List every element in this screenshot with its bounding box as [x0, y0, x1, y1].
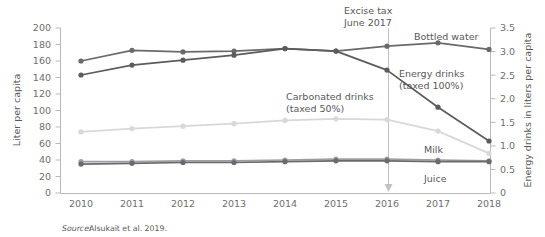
- data-point: [180, 124, 185, 129]
- data-point: [78, 162, 83, 167]
- left-tick-label: 160: [33, 55, 51, 66]
- data-point: [384, 158, 389, 163]
- x-tick-label-2016: 2016: [375, 198, 399, 209]
- data-point: [486, 138, 491, 143]
- annotation-line-2: June 2017: [343, 17, 392, 28]
- series-label-milk: Milk: [424, 144, 443, 155]
- left-axis-title: Liter per capita: [11, 74, 22, 147]
- series-label-carbonated-drinks-sub: (taxed 50%): [286, 103, 344, 114]
- data-point: [231, 160, 236, 165]
- data-point: [282, 46, 287, 51]
- left-tick-label: 100: [33, 105, 51, 116]
- data-point: [78, 129, 83, 134]
- left-tick-label: 140: [33, 72, 51, 83]
- data-point: [231, 53, 236, 58]
- data-point: [129, 126, 134, 131]
- series-line: [81, 49, 489, 141]
- x-tick-label-2010: 2010: [69, 198, 93, 209]
- data-point: [486, 159, 491, 164]
- data-point: [333, 116, 338, 121]
- data-point: [435, 105, 440, 110]
- left-axis-tick-labels: 200 180 160 140 120 100 80 60 40 20 0: [33, 22, 51, 198]
- left-tick-label: 120: [33, 88, 51, 99]
- data-point: [129, 161, 134, 166]
- left-tick-label: 80: [39, 121, 51, 132]
- right-tick-label: 0: [500, 187, 506, 198]
- data-point: [78, 72, 83, 77]
- left-tick-label: 60: [39, 138, 51, 149]
- x-tick-label-2012: 2012: [171, 198, 195, 209]
- series-label-energy-drinks: Energy drinks: [399, 68, 464, 79]
- data-point: [282, 118, 287, 123]
- data-point: [333, 49, 338, 54]
- x-axis-tick-labels: 2010 2011 2012 2013 2014 2015 2016 2017 …: [69, 198, 501, 209]
- x-tick-label-2018: 2018: [477, 198, 501, 209]
- left-tick-label: 200: [33, 22, 51, 33]
- right-tick-label: 3.5: [500, 22, 515, 33]
- data-point: [384, 68, 389, 73]
- right-tick-label: 2.5: [500, 70, 515, 81]
- right-tick-label: 1.0: [500, 140, 515, 151]
- right-tick-label: 2.0: [500, 93, 515, 104]
- data-point: [486, 47, 491, 52]
- right-axis: 3.5 3.0 2.5 2.0 1.5 1.0 0.5 0 Energy dri…: [491, 22, 534, 198]
- right-tick-label: 1.5: [500, 117, 515, 128]
- chart-figure: 200 180 160 140 120 100 80 60 40 20 0 Li…: [0, 0, 545, 237]
- data-point: [129, 48, 134, 53]
- excise-tax-annotation: Excise tax June 2017: [343, 5, 393, 28]
- data-point: [333, 158, 338, 163]
- left-tick-label: 180: [33, 39, 51, 50]
- source-prefix: Source:: [62, 224, 92, 233]
- right-axis-title: Energy drinks in liters per capita: [522, 33, 533, 188]
- data-point: [180, 160, 185, 165]
- series-bottled-water: [78, 40, 491, 63]
- x-tick-label-2015: 2015: [324, 198, 348, 209]
- source-citation: Alsukait et al. 2019.: [89, 224, 167, 233]
- data-point: [78, 58, 83, 63]
- data-point: [282, 159, 287, 164]
- x-tick-label-2014: 2014: [273, 198, 297, 209]
- series-label-bottled-water: Bottled water: [414, 31, 478, 42]
- x-tick-label-2011: 2011: [120, 198, 144, 209]
- excise-tax-event-marker: [385, 28, 393, 192]
- data-point: [180, 49, 185, 54]
- x-tick-label-2017: 2017: [426, 198, 450, 209]
- right-tick-label: 0.5: [500, 164, 515, 175]
- data-point: [129, 63, 134, 68]
- right-axis-tick-labels: 3.5 3.0 2.5 2.0 1.5 1.0 0.5 0: [500, 22, 515, 198]
- data-point: [384, 117, 389, 122]
- x-tick-label-2013: 2013: [222, 198, 246, 209]
- data-point: [486, 151, 491, 156]
- left-tick-label: 0: [45, 187, 51, 198]
- data-point: [435, 159, 440, 164]
- line-chart-svg: 200 180 160 140 120 100 80 60 40 20 0 Li…: [0, 0, 545, 237]
- left-tick-label: 20: [39, 171, 51, 182]
- series-label-energy-drinks-sub: (taxed 100%): [399, 80, 463, 91]
- annotation-line-1: Excise tax: [344, 5, 393, 16]
- series-line: [81, 43, 489, 61]
- data-point: [435, 129, 440, 134]
- series-label-carbonated-drinks: Carbonated drinks: [286, 91, 374, 102]
- right-tick-label: 3.0: [500, 46, 515, 57]
- series-label-juice: Juice: [423, 173, 447, 184]
- right-axis-ticks: [491, 28, 496, 193]
- x-axis: 2010 2011 2012 2013 2014 2015 2016 2017 …: [61, 194, 502, 210]
- data-point: [384, 44, 389, 49]
- data-point: [180, 58, 185, 63]
- source-note: Source: Alsukait et al. 2019.: [62, 224, 167, 233]
- left-tick-label: 40: [39, 154, 51, 165]
- left-axis-ticks: [56, 28, 61, 193]
- data-point: [231, 121, 236, 126]
- left-axis: 200 180 160 140 120 100 80 60 40 20 0 Li…: [11, 22, 61, 198]
